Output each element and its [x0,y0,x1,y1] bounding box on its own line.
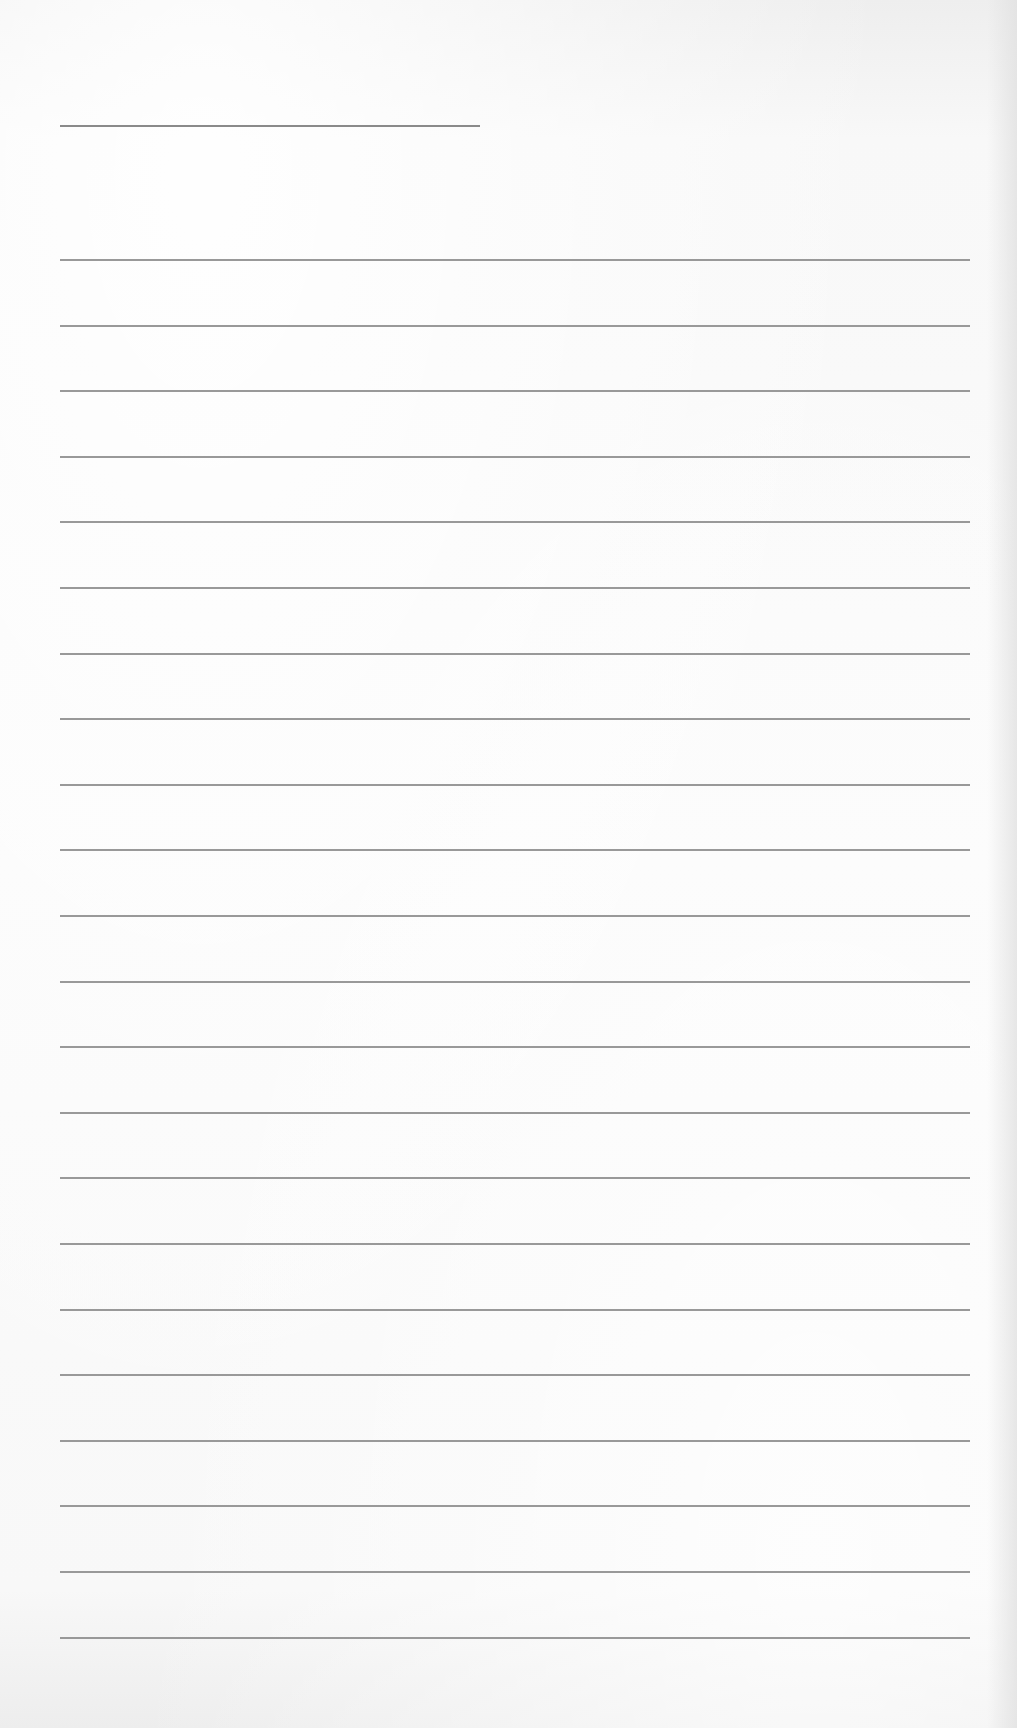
ruled-line[interactable] [60,1440,970,1442]
title-underline[interactable] [60,125,480,127]
ruled-line[interactable] [60,1374,970,1376]
ruled-line[interactable] [60,456,970,458]
ruled-line[interactable] [60,1046,970,1048]
ruled-line[interactable] [60,1571,970,1573]
ruled-line[interactable] [60,1243,970,1245]
ruled-line[interactable] [60,653,970,655]
ruled-line[interactable] [60,325,970,327]
ruled-line[interactable] [60,521,970,523]
ruled-line[interactable] [60,915,970,917]
paper-sheet [0,0,1017,1728]
ruled-line[interactable] [60,1309,970,1311]
ruled-line[interactable] [60,1505,970,1507]
ruled-line[interactable] [60,1177,970,1179]
ruled-line[interactable] [60,587,970,589]
ruled-line[interactable] [60,784,970,786]
ruled-line[interactable] [60,849,970,851]
ruled-line[interactable] [60,1112,970,1114]
ruled-line[interactable] [60,981,970,983]
ruled-line[interactable] [60,259,970,261]
ruled-line[interactable] [60,1637,970,1639]
ruled-line[interactable] [60,390,970,392]
ruled-line[interactable] [60,718,970,720]
